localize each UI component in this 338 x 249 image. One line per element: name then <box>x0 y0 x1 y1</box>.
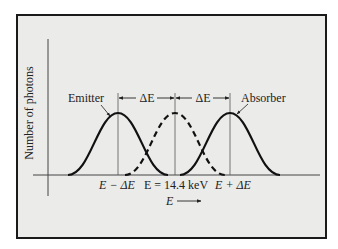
tick-left-label: E − ΔE <box>98 178 135 192</box>
photon-energy-diagram: Number of photons ΔE ΔE Emitter Absorber… <box>0 0 338 249</box>
x-axis-label: E <box>165 194 174 208</box>
delta-left-label: ΔE <box>139 91 154 105</box>
y-axis-label: Number of photons <box>22 66 36 160</box>
tick-right-label: E + ΔE <box>214 178 251 192</box>
tick-center-label: E = 14.4 keV <box>144 178 208 192</box>
emitter-leader <box>101 105 110 116</box>
delta-right-label: ΔE <box>195 91 210 105</box>
absorber-leader <box>237 104 248 114</box>
absorber-label: Absorber <box>241 91 286 105</box>
emitter-label: Emitter <box>68 91 104 105</box>
